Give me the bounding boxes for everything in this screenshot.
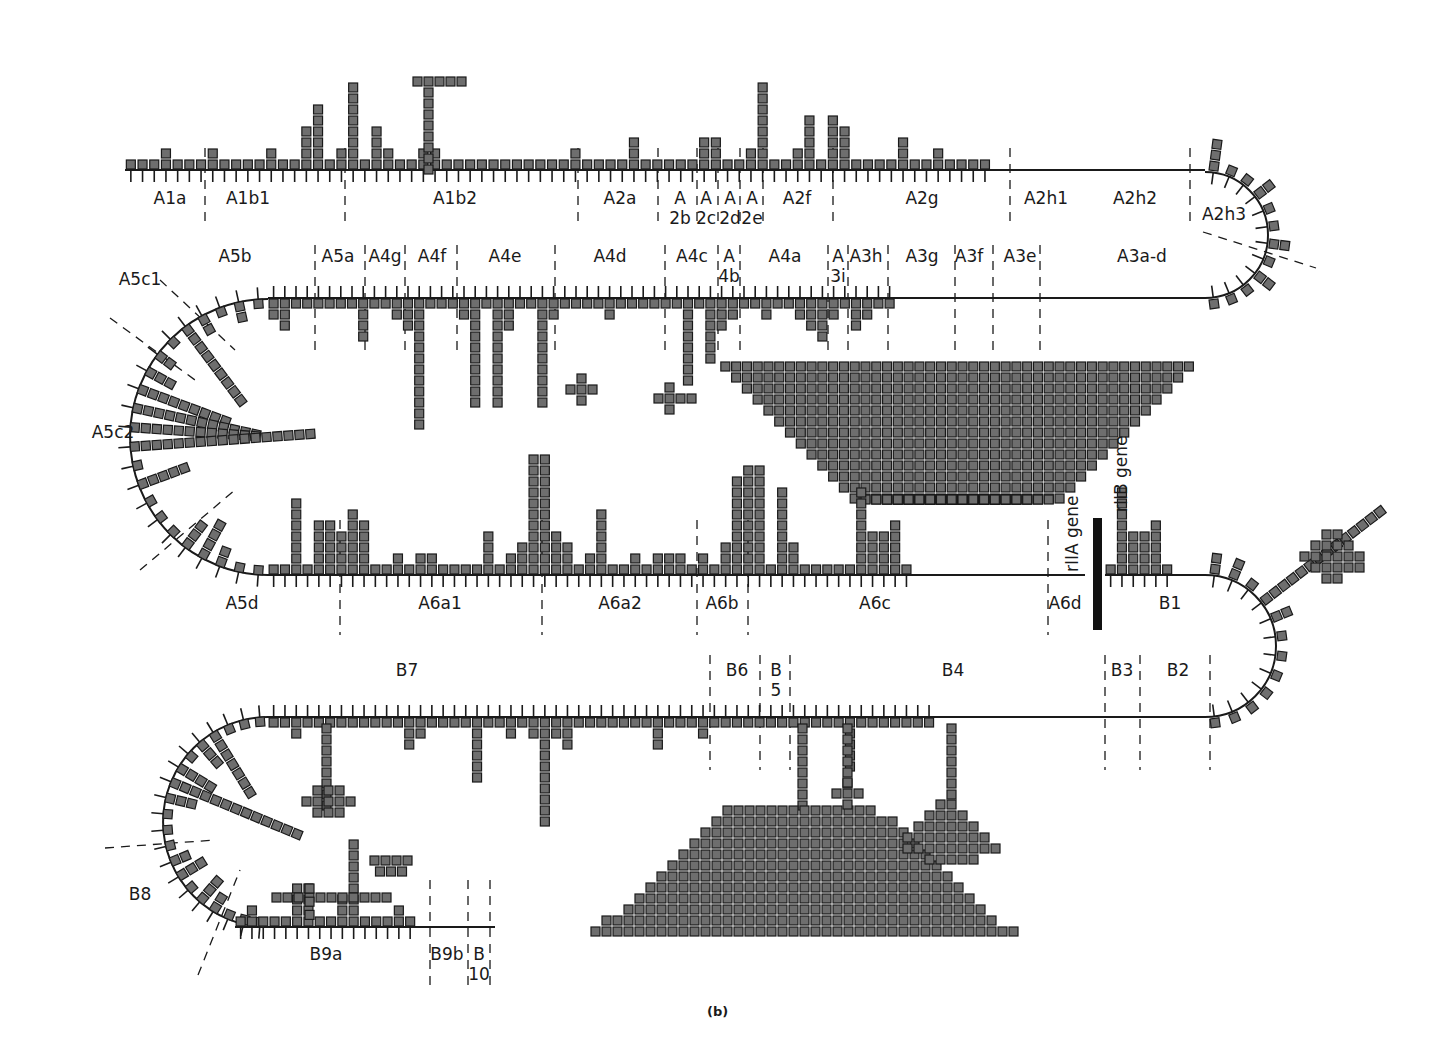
- mutation-cell: [734, 828, 743, 837]
- mutation-cell: [778, 927, 787, 936]
- mutation-cell: [684, 332, 693, 341]
- mutation-cell: [1012, 406, 1021, 415]
- mutation-cell: [947, 461, 956, 470]
- mutation-cell: [701, 894, 710, 903]
- mutation-cell: [466, 160, 475, 169]
- mutation-cell: [372, 138, 381, 147]
- mutation-cell: [915, 384, 924, 393]
- mutation-cell: [943, 927, 952, 936]
- label-line: A: [832, 246, 844, 266]
- mutation-cell: [1322, 552, 1331, 561]
- mutation-cell: [976, 916, 985, 925]
- mutation-cell: [161, 149, 170, 158]
- mutation-cell: [473, 751, 482, 760]
- mutation-cell: [1012, 495, 1021, 504]
- mutation-cell: [566, 385, 575, 394]
- mutation-cell: [552, 554, 561, 563]
- mutation-cell: [1174, 362, 1183, 371]
- mutation-cell: [921, 894, 930, 903]
- mutation-cell: [700, 160, 709, 169]
- mutation-cell: [701, 861, 710, 870]
- mutation-cell: [807, 439, 816, 448]
- mutation-cell: [798, 779, 807, 788]
- mutation-cell: [936, 373, 945, 382]
- segment-label: B6: [726, 660, 748, 680]
- mutation-cell: [947, 833, 956, 842]
- mutation-cell: [732, 554, 741, 563]
- mutation-cell: [1087, 384, 1096, 393]
- mutation-cell: [756, 916, 765, 925]
- mutation-cell: [512, 160, 521, 169]
- mutation-cell: [822, 806, 831, 815]
- mutation-cell: [732, 532, 741, 541]
- mutation-cell: [1120, 417, 1129, 426]
- mutation-cell: [336, 299, 345, 308]
- mutation-cell: [758, 105, 767, 114]
- mutation-cell: [618, 160, 627, 169]
- site-tick: [1241, 693, 1248, 703]
- mutation-cell: [863, 310, 872, 319]
- segment-label: B9a: [310, 944, 343, 964]
- mutation-cell: [947, 735, 956, 744]
- mutation-cell: [484, 718, 493, 727]
- mutation-cell: [758, 116, 767, 125]
- mutation-cell: [711, 138, 720, 147]
- mutation-cell: [899, 905, 908, 914]
- mutation-cell: [1009, 927, 1018, 936]
- mutation-cell: [493, 343, 502, 352]
- mutation-cell: [540, 817, 549, 826]
- mutation-cell: [349, 105, 358, 114]
- mutation-cell: [888, 839, 897, 848]
- mutation-cell: [822, 872, 831, 881]
- mutation-cell: [1311, 552, 1320, 561]
- mutation-cell: [1066, 406, 1075, 415]
- mutation-cell: [243, 160, 252, 169]
- site-tick: [178, 547, 185, 557]
- mutation-cell: [349, 884, 358, 893]
- mutation-cell: [383, 917, 392, 926]
- mutation-cell: [1012, 384, 1021, 393]
- mutation-cell: [1129, 532, 1138, 541]
- mutation-cell: [818, 439, 827, 448]
- mutation-cell: [745, 861, 754, 870]
- mutation-cell: [721, 565, 730, 574]
- mutation-cell: [734, 883, 743, 892]
- mutation-cell: [833, 850, 842, 859]
- mutation-cell: [1012, 439, 1021, 448]
- mutation-cell: [936, 406, 945, 415]
- mutation-cell: [284, 431, 294, 441]
- mutation-cell: [690, 894, 699, 903]
- mutation-cell: [879, 718, 888, 727]
- mutation-cell: [844, 839, 853, 848]
- mutation-cell: [744, 488, 753, 497]
- mutation-cell: [877, 883, 886, 892]
- mutation-cell: [883, 373, 892, 382]
- mutation-cell: [818, 395, 827, 404]
- mutation-cell: [980, 428, 989, 437]
- mutation-cell: [1109, 373, 1118, 382]
- mutation-cell: [574, 565, 583, 574]
- mutation-cell: [349, 873, 358, 882]
- mutation-cell: [540, 751, 549, 760]
- mutation-cell: [676, 718, 685, 727]
- mutation-cell: [947, 406, 956, 415]
- site-tick: [1212, 173, 1214, 185]
- mutation-cell: [597, 718, 606, 727]
- segment-label: B8: [129, 884, 151, 904]
- mutation-cell: [807, 384, 816, 393]
- mutation-cell: [1055, 472, 1064, 481]
- mutation-cell: [1023, 450, 1032, 459]
- site-tick: [259, 927, 260, 939]
- mutation-cell: [1140, 554, 1149, 563]
- mutation-cell: [529, 510, 538, 519]
- mutation-cell: [833, 872, 842, 881]
- mutation-cell: [501, 160, 510, 169]
- mutation-cell: [899, 894, 908, 903]
- mutation-cell: [1151, 543, 1160, 552]
- mutation-cell: [899, 861, 908, 870]
- mutation-cell: [506, 718, 515, 727]
- mutation-cell: [965, 927, 974, 936]
- mutation-cell: [1023, 439, 1032, 448]
- mutation-cell: [822, 916, 831, 925]
- mutation-cell: [672, 299, 681, 308]
